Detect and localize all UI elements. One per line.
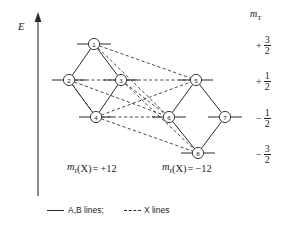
energy-axis-label: E [18, 22, 24, 33]
x-line-1-5 [99, 46, 190, 78]
ab-line-1-2 [72, 49, 91, 76]
ab-line-5-6 [172, 85, 192, 113]
ab-line-3-4 [99, 85, 118, 113]
level-minus-1-2: −12 [256, 108, 271, 129]
level-minus-3-2-sign: − [256, 149, 262, 160]
group-left-m: m [67, 161, 75, 172]
mt-header: mT [250, 9, 262, 22]
group-right-equals: = [188, 163, 194, 174]
group-left: mI(X)=+12 [67, 161, 117, 175]
node-5 [190, 74, 201, 85]
level-minus-3-2: −32 [256, 144, 271, 165]
level-plus-1-2: +12 [256, 71, 271, 92]
ab-transition-lines [72, 48, 221, 148]
level-plus-3-2-numerator: 3 [264, 35, 271, 45]
energy-axis-arrowhead [35, 12, 42, 22]
group-right-fraction: 12 [201, 163, 212, 174]
ab-line-6-8 [173, 121, 195, 148]
group-right-m: m [162, 161, 170, 172]
group-left-argument: (X) [77, 163, 92, 174]
node-6 [163, 111, 174, 122]
ab-line-5-7 [199, 84, 221, 112]
legend-solid-label: A,B lines; [68, 205, 104, 215]
level-minus-3-2-denominator: 2 [264, 154, 271, 165]
diagram-canvas [0, 0, 289, 229]
node-3 [115, 74, 126, 85]
mt-subscript: T [257, 14, 261, 22]
level-minus-3-2-numerator: 3 [264, 144, 271, 154]
ab-line-1-3 [97, 48, 117, 75]
ab-line-2-4 [72, 85, 92, 113]
node-2 [63, 74, 74, 85]
level-plus-3-2-sign: + [256, 40, 262, 51]
level-nodes [63, 38, 230, 158]
energy-axis [35, 12, 42, 196]
group-right-symbol: mI [162, 161, 172, 175]
group-left-equals: = [93, 163, 99, 174]
level-plus-3-2-fraction: 32 [264, 35, 271, 56]
level-plus-3-2: +32 [256, 35, 271, 56]
level-tick-marks [52, 44, 242, 153]
level-plus-1-2-denominator: 2 [264, 81, 271, 92]
level-plus-1-2-numerator: 1 [264, 71, 271, 81]
x-line-4-5 [101, 82, 190, 115]
level-minus-1-2-denominator: 2 [264, 118, 271, 129]
legend-dashed-label: X lines [144, 205, 170, 215]
group-left-fraction: 12 [106, 163, 117, 174]
group-left-denominator: 2 [112, 163, 117, 174]
level-minus-3-2-fraction: 32 [264, 144, 271, 165]
legend: A,B lines; X lines [47, 205, 169, 215]
level-minus-1-2-numerator: 1 [264, 108, 271, 118]
level-plus-1-2-sign: + [256, 76, 262, 87]
group-right: mI(X)=−12 [162, 161, 212, 175]
ab-line-7-8 [201, 121, 221, 148]
level-minus-1-2-sign: − [256, 113, 262, 124]
dashed-line-swatch [124, 210, 141, 211]
level-plus-3-2-denominator: 2 [264, 45, 271, 56]
x-transition-lines [72, 46, 194, 151]
level-plus-1-2-fraction: 12 [264, 71, 271, 92]
group-right-argument: (X) [172, 163, 187, 174]
solid-line-swatch [47, 210, 64, 211]
node-1 [88, 38, 99, 49]
node-4 [90, 111, 101, 122]
x-line-2-6 [74, 82, 163, 115]
node-8 [192, 147, 203, 158]
node-7 [219, 111, 230, 122]
group-left-symbol: mI [67, 161, 77, 175]
group-right-denominator: 2 [207, 163, 212, 174]
energy-level-diagram: E mT +32+12−12−32 mI(X)=+12mI(X)=−12 A,B… [0, 0, 289, 229]
level-minus-1-2-fraction: 12 [264, 108, 271, 129]
